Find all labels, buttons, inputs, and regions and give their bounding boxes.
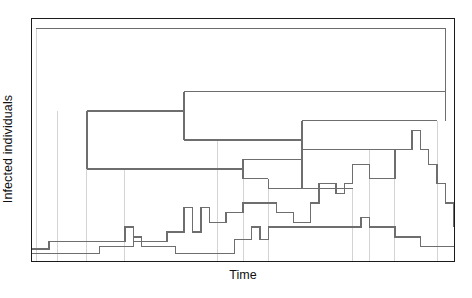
tree-connector-lines: [36, 29, 437, 261]
x-axis-label: Time: [31, 268, 455, 282]
phylodynamic-figure: Infected individuals Time: [0, 0, 472, 298]
tree-branch-lines: [36, 29, 445, 189]
plot-canvas: [0, 0, 472, 298]
y-axis-label: Infected individuals: [0, 0, 16, 298]
